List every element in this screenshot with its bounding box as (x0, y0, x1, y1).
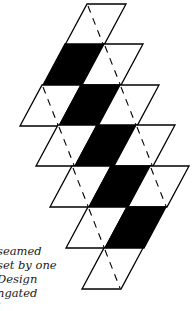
caption-line-1: seamed (0, 245, 59, 259)
caption-line-5: i (0, 301, 59, 311)
caption-line-2: set by one (0, 259, 59, 273)
figure-caption: seamed set by one Design ngated i (0, 245, 59, 311)
caption-line-3: Design (0, 273, 59, 287)
caption-line-4: ngated (0, 287, 59, 301)
